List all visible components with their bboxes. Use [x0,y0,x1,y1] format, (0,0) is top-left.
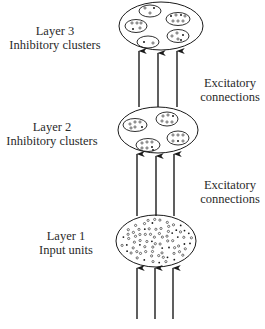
connections-layer1-to-layer2 [137,154,174,216]
input-unit [127,229,129,231]
input-unit [151,250,153,252]
input-unit [184,248,186,250]
input-unit [151,255,153,257]
input-unit [149,233,151,235]
layer3-description-label: Inhibitory clusters [9,38,100,52]
input-unit [159,243,161,245]
input-unit [177,236,179,238]
input-unit [158,262,160,264]
input-unit [144,228,146,230]
input-unit [184,230,186,232]
input-unit [135,224,137,226]
input-unit [148,228,150,230]
input-unit [166,235,168,237]
input-unit [132,247,134,249]
input-unit [134,235,136,237]
layer2-cluster [123,119,147,132]
input-unit [144,246,146,248]
input-unit [160,227,162,229]
input-unit [180,225,182,227]
input-unit [154,218,156,220]
input-unit [183,236,185,238]
input-unit [178,251,180,253]
layer3-name-label: Layer 3 [36,24,75,38]
input-unit [132,231,134,233]
layer2-boundary [118,107,198,153]
layer1-description-label: Input units [39,243,93,257]
input-unit [143,259,145,261]
input-unit [139,244,141,246]
layer3-cluster [166,13,190,26]
input-unit [179,231,181,233]
input-unit [172,224,174,226]
input-unit [167,256,169,258]
layer3-cluster [137,36,159,48]
input-unit [121,244,123,246]
input-unit [188,232,190,234]
input-unit [173,259,175,261]
input-unit [147,219,149,221]
input-unit [154,243,156,245]
input-unit [152,222,154,224]
input-unit [139,239,141,241]
input-unit [151,240,153,242]
input-unit [171,232,173,234]
layer3-cluster [125,20,147,33]
input-unit [152,261,154,263]
input-unit [178,245,180,247]
layer3-cluster [139,5,161,17]
layer2 [118,107,198,153]
input-unit [158,232,160,234]
input-unit [189,243,191,245]
input-unit [172,240,174,242]
layer2-description-label: Inhibitory clusters [6,134,97,148]
input-unit [182,254,184,256]
input-unit [155,228,157,230]
input-unit [167,230,169,232]
input-unit [161,247,163,249]
input-unit [139,233,141,235]
input-unit [145,251,147,253]
connections-layer2-to-layer3 [139,51,177,107]
input-unit [130,252,132,254]
input-unit [173,252,175,254]
input-unit [133,241,135,243]
layer3 [119,2,203,50]
input-unit [158,255,160,257]
layer2-cluster [167,131,189,145]
layer1-name-label: Layer 1 [47,229,86,243]
input-unit [175,229,177,231]
input-unit [127,233,129,235]
input-unit [161,236,163,238]
layer2-cluster [136,139,160,152]
input-unit [162,256,164,258]
input-unit [146,240,148,242]
input-unit [168,225,170,227]
connection-2-3-label-line1: Excitatory [204,76,257,90]
connection-2-3-label-line2: connections [200,90,260,104]
layer1 [116,215,196,267]
input-unit [165,261,167,263]
layer2-name-label: Layer 2 [33,120,72,134]
input-unit [166,221,168,223]
layer2-cluster [156,112,178,126]
input-unit [159,219,161,221]
competitive-learning-diagram: Layer 3 Inhibitory clusters Layer 2 Inhi… [0,0,265,329]
layer1-units [121,218,192,263]
input-unit [184,243,186,245]
input-unit [123,236,125,238]
input-unit [161,252,163,254]
layer3-cluster [167,30,189,43]
input-unit [139,252,141,254]
input-unit [167,240,169,242]
input-unit [138,228,140,230]
input-unit [143,223,145,225]
input-unit [168,247,170,249]
layer1-boundary [116,215,196,267]
input-unit [174,247,176,249]
connection-1-2-label-line1: Excitatory [204,178,257,192]
input-unit [128,237,130,239]
input-unit [126,250,128,252]
input-unit [190,237,192,239]
input-unit [144,233,146,235]
